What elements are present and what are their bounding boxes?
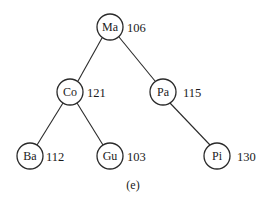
node-pi-value: 130 — [237, 150, 256, 164]
node-ma-label: Ma — [102, 20, 119, 34]
tree-diagram: Ma 106 Co 121 Pa 115 Ba 112 Gu 103 Pi 13… — [0, 0, 268, 206]
node-gu-value: 103 — [127, 150, 146, 164]
node-co-label: Co — [63, 85, 77, 99]
node-ba: Ba 112 — [17, 143, 64, 169]
figure-caption: (e) — [126, 178, 139, 192]
node-co: Co 121 — [57, 79, 106, 105]
node-pi: Pi 130 — [204, 143, 256, 169]
node-pa: Pa 115 — [150, 79, 201, 105]
edge-pa-pi — [170, 103, 210, 145]
edge-co-gu — [77, 103, 103, 145]
node-co-value: 121 — [87, 86, 106, 100]
node-gu: Gu 103 — [97, 143, 146, 169]
node-ma: Ma 106 — [97, 14, 146, 40]
node-ba-label: Ba — [23, 149, 37, 163]
node-ma-value: 106 — [127, 21, 146, 35]
node-gu-label: Gu — [103, 149, 118, 163]
node-pa-value: 115 — [183, 86, 201, 100]
edge-ma-co — [78, 38, 102, 81]
node-pi-label: Pi — [212, 149, 223, 163]
edge-co-ba — [37, 103, 63, 145]
edge-ma-pa — [119, 37, 155, 81]
node-ba-value: 112 — [46, 150, 64, 164]
node-pa-label: Pa — [157, 85, 170, 99]
